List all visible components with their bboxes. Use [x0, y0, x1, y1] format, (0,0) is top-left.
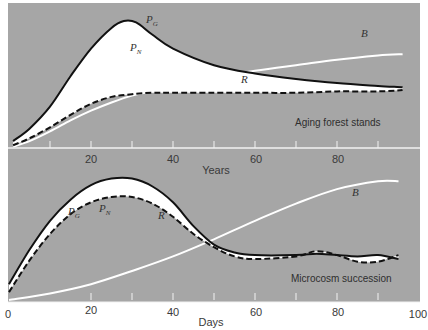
- top-tick-60: 60: [250, 153, 262, 165]
- top-tick-80: 80: [332, 153, 344, 165]
- top-tick-20: 20: [85, 153, 97, 165]
- bottom-b-label: B: [352, 186, 359, 198]
- bottom-panel-title: Microcosm succession: [291, 273, 392, 284]
- bottom-r-label: R: [157, 209, 165, 221]
- bottom-x-axis-title: Days: [198, 316, 224, 328]
- bottom-tick-60: 60: [250, 306, 262, 318]
- bottom-tick-40: 40: [167, 306, 179, 318]
- top-x-axis-title: Years: [202, 164, 230, 176]
- top-tick-40: 40: [167, 153, 179, 165]
- bottom-tick-100: 100: [409, 308, 427, 320]
- bottom-tick-20: 20: [85, 304, 97, 316]
- bottom-tick-0: 0: [5, 308, 11, 320]
- top-panel-title: Aging forest stands: [295, 117, 381, 128]
- succession-figure: PG PN R B Aging forest stands 20 40 60 8…: [0, 0, 428, 330]
- top-r-label: R: [240, 73, 248, 85]
- bottom-tick-80: 80: [332, 306, 344, 318]
- top-b-label: B: [361, 27, 368, 39]
